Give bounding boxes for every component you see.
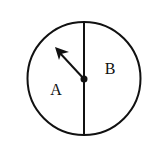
section-b-label: B <box>105 61 116 77</box>
pointer-arrow <box>59 52 84 79</box>
spinner-diagram: A B <box>0 0 150 151</box>
spinner-graphic <box>0 0 150 151</box>
arrowhead-icon <box>55 47 69 60</box>
section-a-label: A <box>50 82 62 98</box>
pivot-dot <box>81 76 88 83</box>
